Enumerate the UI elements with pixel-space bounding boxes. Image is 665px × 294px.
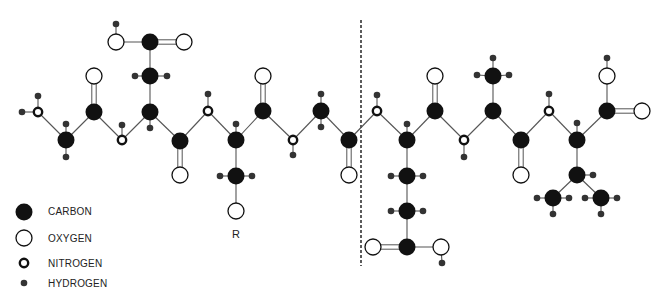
hydrogen-icon (546, 91, 553, 98)
hydrogen-icon (404, 121, 411, 128)
nitrogen-icon (545, 107, 553, 115)
hydrogen-icon (614, 195, 621, 202)
nitrogen-icon (373, 107, 381, 115)
legend-nitrogen-label: NITROGEN (48, 258, 102, 269)
carbon-icon (599, 103, 616, 120)
hydrogen-icon (388, 208, 395, 215)
molecule-diagram: R CARBON OXYGEN NITROGEN HYDROGEN (0, 0, 665, 294)
hydrogen-icon (506, 72, 513, 79)
hydrogen-icon (590, 172, 597, 179)
hydrogen-icon (598, 211, 605, 218)
oxygen-icon (513, 167, 529, 183)
hydrogen-icon (490, 55, 497, 62)
carbon-icon (313, 103, 330, 120)
hydrogen-icon (604, 55, 611, 62)
oxygen-icon (176, 34, 192, 50)
hydrogen-icon (574, 120, 581, 127)
hydrogen-icon (233, 121, 240, 128)
hydrogen-icon (582, 195, 589, 202)
legend-carbon-label: CARBON (48, 206, 92, 217)
hydrogen-icon (420, 173, 427, 180)
r-group-label: R (232, 228, 240, 240)
oxygen-icon (255, 68, 271, 84)
oxygen-icon (599, 68, 615, 84)
hydrogen-icon (318, 91, 325, 98)
hydrogen-icon (566, 195, 573, 202)
hydrogen-icon (249, 173, 256, 180)
oxygen-icon (172, 167, 188, 183)
carbon-icon (399, 203, 416, 220)
carbon-icon (399, 239, 416, 256)
hydrogen-icon (290, 152, 297, 159)
hydrogen-icon (420, 208, 427, 215)
oxygen-icon (433, 239, 449, 255)
carbon-icon (427, 103, 444, 120)
carbon-icon (142, 104, 159, 121)
carbon-icon (255, 103, 272, 120)
legend: CARBON OXYGEN NITROGEN HYDROGEN (0, 0, 120, 294)
carbon-icon (569, 132, 586, 149)
carbon-icon (172, 133, 189, 150)
carbon-icon (228, 132, 245, 149)
oxygen-icon (634, 103, 650, 119)
legend-hydrogen-label: HYDROGEN (48, 278, 107, 289)
oxygen-icon (427, 68, 443, 84)
carbon-icon (399, 132, 416, 149)
carbon-icon (142, 68, 159, 85)
carbon-icon (513, 132, 530, 149)
hydrogen-icon (164, 73, 171, 80)
carbon-icon (228, 168, 245, 185)
hydrogen-icon (205, 91, 212, 98)
hydrogen-icon (439, 260, 446, 267)
carbon-icon (593, 190, 610, 207)
carbon-icon (142, 34, 159, 51)
nitrogen-icon (204, 107, 212, 115)
carbon-icon (485, 103, 502, 120)
hydrogen-icon (550, 211, 557, 218)
legend-oxygen-label: OXYGEN (48, 233, 92, 244)
oxygen-icon (228, 203, 244, 219)
hydrogen-icon (217, 173, 224, 180)
hydrogen-icon (147, 125, 154, 132)
carbon-icon (399, 168, 416, 185)
oxygen-icon (341, 167, 357, 183)
carbon-icon (545, 190, 562, 207)
nitrogen-icon (460, 136, 468, 144)
hydrogen-icon (534, 195, 541, 202)
hydrogen-icon (388, 173, 395, 180)
hydrogen-icon (374, 92, 381, 99)
hydrogen-icon (132, 73, 139, 80)
oxygen-icon (365, 239, 381, 255)
carbon-icon (341, 132, 358, 149)
carbon-icon (485, 68, 502, 85)
hydrogen-icon (461, 154, 468, 161)
carbon-icon (569, 167, 586, 184)
hydrogen-icon (474, 72, 481, 79)
hydrogen-icon (318, 124, 325, 131)
nitrogen-icon (289, 136, 297, 144)
